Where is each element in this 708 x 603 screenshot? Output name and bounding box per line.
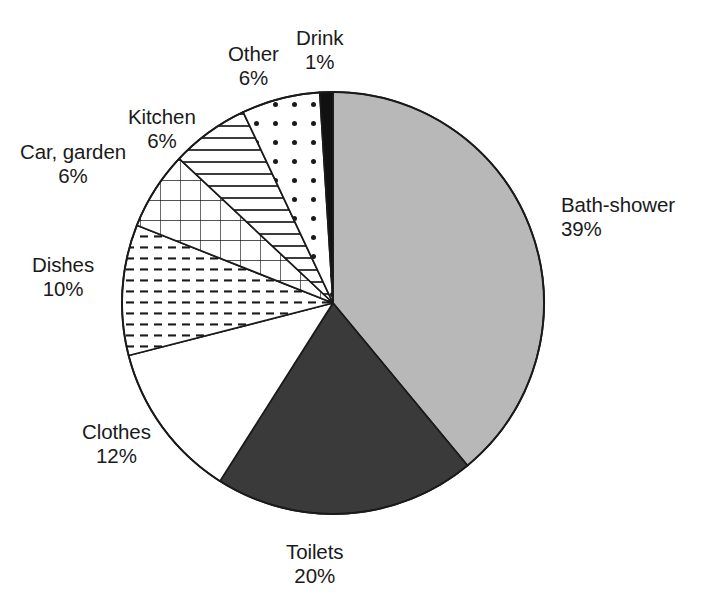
slice-label-kitchen-name: Kitchen [128,105,196,129]
slice-label-toilets: Toilets 20% [286,540,343,588]
pie-chart: Bath-shower 39% Toilets 20% Clothes 12% … [0,0,708,603]
slice-label-dishes-name: Dishes [32,253,94,277]
slice-label-clothes: Clothes 12% [82,420,151,468]
slice-label-other-percent: 6% [228,66,279,90]
slice-label-bath-shower-percent: 39% [561,217,675,241]
slice-label-toilets-percent: 20% [286,564,343,588]
slice-label-kitchen-percent: 6% [128,129,196,153]
slice-label-bath-shower: Bath-shower 39% [561,193,675,241]
slice-label-clothes-percent: 12% [82,444,151,468]
slice-label-other: Other 6% [228,42,279,90]
slice-label-dishes: Dishes 10% [32,253,94,301]
slice-label-car-garden: Car, garden 6% [20,140,126,188]
slice-label-drink-percent: 1% [296,50,343,74]
slice-label-dishes-percent: 10% [32,277,94,301]
pie-chart-svg [0,0,708,603]
slice-label-drink: Drink 1% [296,26,343,74]
slice-label-car-garden-name: Car, garden [20,140,126,164]
slice-label-car-garden-percent: 6% [20,164,126,188]
slice-label-other-name: Other [228,42,279,66]
slice-label-clothes-name: Clothes [82,420,151,444]
slice-label-kitchen: Kitchen 6% [128,105,196,153]
slice-label-drink-name: Drink [296,26,343,50]
slice-label-toilets-name: Toilets [286,540,343,564]
slice-label-bath-shower-name: Bath-shower [561,193,675,217]
pie-slices [122,92,544,514]
